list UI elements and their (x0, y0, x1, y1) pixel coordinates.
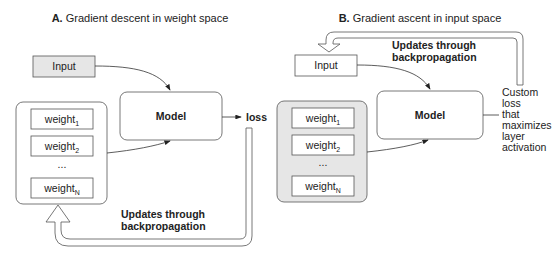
panel-b-model-label: Model (415, 109, 445, 121)
panel-b-weight-n-label: weightN (304, 180, 340, 194)
panel-b-title-prefix: B. (339, 12, 350, 24)
panel-a-weight-n-label: weightN (43, 182, 79, 196)
panel-b-input-label: Input (314, 59, 337, 71)
panel-b-custom-loss-label: Custom loss that maximizes layer activat… (502, 86, 552, 153)
panel-b-input-to-model-arrow (357, 65, 430, 89)
panel-b-weight-1-label: weight1 (305, 112, 340, 126)
panel-b-custom-loss-line-6: activation (502, 141, 547, 153)
panel-a-model-label: Model (156, 110, 186, 122)
panel-b-update-label-line2: backpropagation (392, 51, 477, 63)
panel-b: B. Gradient ascent in input space Update… (277, 12, 552, 202)
panel-a-loss-label: loss (246, 111, 267, 123)
panel-a-input-label: Input (52, 60, 75, 72)
panel-b-title: B. Gradient ascent in input space (339, 12, 502, 24)
panel-a-weights-ellipsis: ... (58, 158, 67, 170)
panel-a: A. Gradient descent in weight space Inpu… (16, 12, 267, 246)
panel-a-update-label-line1: Updates through (121, 208, 205, 220)
panel-a-weight-1-label: weight1 (44, 113, 79, 127)
panel-a-input-to-model-arrow (95, 66, 170, 90)
panel-b-weights-to-model-arrow (367, 140, 428, 152)
panel-b-weight-2-label: weight2 (305, 139, 340, 153)
panel-a-title-text: Gradient descent in weight space (63, 12, 229, 24)
panel-a-title: A. Gradient descent in weight space (52, 12, 229, 24)
panel-b-update-label-line1: Updates through (392, 39, 476, 51)
panel-a-weights-to-model-arrow (107, 141, 170, 153)
panel-a-update-label-line2: backpropagation (121, 220, 206, 232)
panel-a-title-prefix: A. (52, 12, 63, 24)
panel-b-title-text: Gradient ascent in input space (350, 12, 502, 24)
diagram-canvas: A. Gradient descent in weight space Inpu… (0, 0, 558, 257)
panel-b-weights-ellipsis: ... (319, 156, 328, 168)
panel-a-weight-2-label: weight2 (44, 140, 79, 154)
